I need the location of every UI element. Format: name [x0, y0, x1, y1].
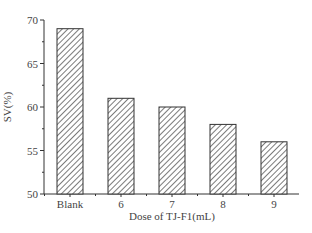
- bar-8: [210, 124, 236, 194]
- x-tick-label: 6: [118, 198, 124, 210]
- bar-7: [159, 107, 185, 194]
- y-tick-label: 70: [27, 14, 39, 26]
- x-tick-label: 9: [271, 198, 277, 210]
- bar-9: [261, 142, 287, 194]
- y-tick-label: 60: [27, 101, 39, 113]
- x-tick-label: 7: [169, 198, 175, 210]
- y-tick-label: 65: [27, 58, 39, 70]
- x-tick-label: Blank: [57, 198, 84, 210]
- y-axis-title: SV(%): [1, 91, 14, 122]
- bar-chart: 5055606570Blank6789Dose of TJ-F1(mL)SV(%…: [0, 0, 312, 233]
- bar-blank: [57, 29, 83, 194]
- y-tick-label: 50: [27, 188, 39, 200]
- bar-6: [108, 98, 134, 194]
- bars: [57, 29, 287, 194]
- y-tick-label: 55: [27, 145, 39, 157]
- x-axis-title: Dose of TJ-F1(mL): [129, 210, 215, 223]
- x-tick-label: 8: [220, 198, 226, 210]
